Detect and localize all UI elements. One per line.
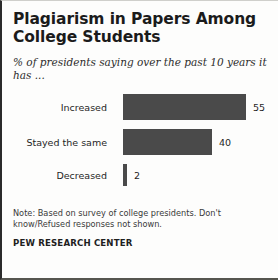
bar-value-label: 55 bbox=[253, 102, 265, 113]
bar-value-label: 40 bbox=[219, 137, 231, 148]
bar-fill bbox=[123, 94, 246, 120]
bar-track: 2 bbox=[123, 164, 270, 186]
chart-source: PEW RESEARCH CENTER bbox=[13, 238, 270, 248]
bar-fill bbox=[123, 164, 127, 186]
bar-track: 55 bbox=[123, 94, 270, 120]
chart-figure: Plagiarism in Papers Among College Stude… bbox=[0, 0, 278, 280]
chart-note: Note: Based on survey of college preside… bbox=[13, 208, 253, 229]
bar-category-label: Decreased bbox=[56, 170, 107, 181]
bar-row: Increased 55 bbox=[11, 94, 270, 120]
chart-title: Plagiarism in Papers Among College Stude… bbox=[13, 10, 263, 46]
bar-category-label: Stayed the same bbox=[26, 137, 107, 148]
bar-category-label: Increased bbox=[61, 102, 107, 113]
bar-chart-plot: Increased 55 Stayed the same 40 Decrease… bbox=[11, 94, 270, 200]
bar-row: Stayed the same 40 bbox=[11, 129, 270, 155]
bar-value-label: 2 bbox=[134, 170, 140, 181]
bar-track: 40 bbox=[123, 129, 270, 155]
chart-subtitle: % of presidents saying over the past 10 … bbox=[13, 56, 270, 82]
bar-fill bbox=[123, 129, 212, 155]
bar-row: Decreased 2 bbox=[11, 164, 270, 186]
